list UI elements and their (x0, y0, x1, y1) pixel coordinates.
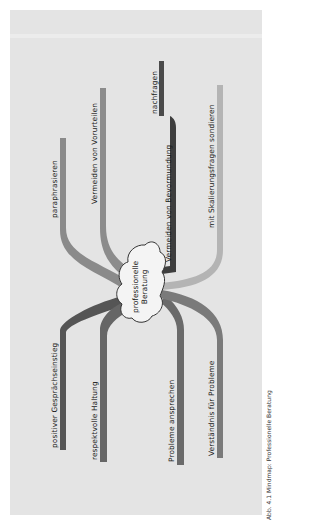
label-haltung: respektvolle Haltung (90, 381, 99, 460)
label-bevormundung: Vermeiden von Bevormundung (164, 145, 173, 262)
center-line-2: Beratung (140, 261, 149, 313)
label-vorurteilen: Vermeiden von Vorurteilen (90, 103, 99, 204)
branch-vorurteilen (100, 88, 134, 280)
label-verstaendnis: Verständnis für Probleme (207, 361, 216, 457)
label-gespraechseinstieg: positiver Gesprächseinstieg (50, 343, 59, 448)
center-line-1: professionelle (131, 261, 140, 313)
center-topic: professionelle Beratung (131, 261, 149, 313)
figure-caption: Abb. 4.1 Mindmap: Professionelle Beratun… (265, 390, 272, 520)
label-paraphrasieren: paraphrasieren (50, 160, 59, 218)
label-ansprechen: Probleme ansprechen (167, 380, 176, 462)
label-nachfragen: nachfragen (150, 71, 159, 114)
branch-nachfragen (159, 61, 164, 116)
label-skalierung: mit Skalierungsfragen sondieren (207, 105, 216, 228)
branch-haltung (100, 302, 130, 462)
